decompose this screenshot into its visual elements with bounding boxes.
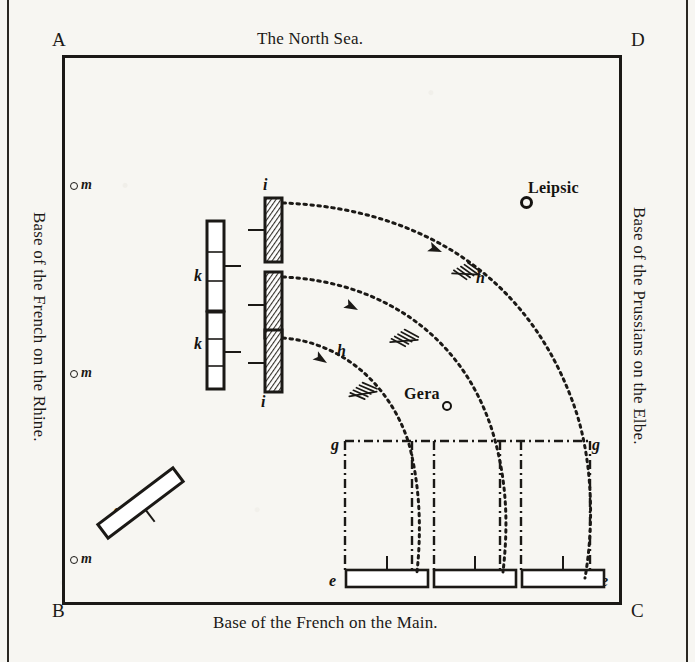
corps-i-bottom: [248, 330, 282, 392]
march-curve-middle: [283, 277, 506, 572]
march-arrowheads: [313, 242, 444, 367]
corps-k-lower: [207, 312, 241, 389]
corps-k-upper: [207, 221, 241, 311]
march-curves-h: [283, 203, 591, 578]
corps-f: [98, 468, 192, 550]
corps-i-top: [248, 198, 282, 262]
march-hatch-ticks: [348, 259, 482, 407]
staging-line-g: [345, 441, 590, 572]
march-curve-outer: [283, 203, 591, 578]
march-curve-inner: [283, 338, 419, 572]
figure-page: A D B C The North Sea. Base of the Frenc…: [0, 0, 695, 662]
corps-i-middle: [248, 272, 282, 338]
corps-e-right: [522, 556, 604, 587]
diagram-artwork: [0, 0, 695, 662]
